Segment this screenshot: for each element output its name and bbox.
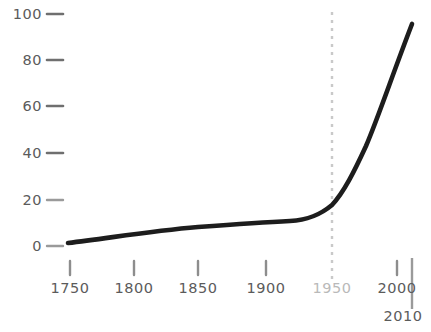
y-tick-label-100: 100: [0, 7, 42, 22]
y-tick-label-20: 20: [0, 193, 42, 208]
x-axis-ticks: [70, 261, 397, 275]
x-tick-label-1750: 1750: [40, 281, 100, 296]
x-tick-label-2000: 2000: [367, 281, 427, 296]
y-tick-label-60: 60: [0, 99, 42, 114]
x-tick-label-1850: 1850: [168, 281, 228, 296]
x-tick-label-2010: 2010: [375, 309, 431, 324]
growth-curve: [68, 24, 412, 243]
x-tick-label-1900: 1900: [236, 281, 296, 296]
y-axis-ticks: [47, 14, 63, 246]
y-tick-label-80: 80: [0, 53, 42, 68]
exponential-growth-chart: 100 80 60 40 20 0 1750 1800 1850 1900 19…: [0, 0, 431, 332]
y-tick-label-0: 0: [0, 239, 42, 254]
x-tick-label-1950: 1950: [302, 281, 362, 296]
y-tick-label-40: 40: [0, 146, 42, 161]
x-tick-label-1800: 1800: [104, 281, 164, 296]
